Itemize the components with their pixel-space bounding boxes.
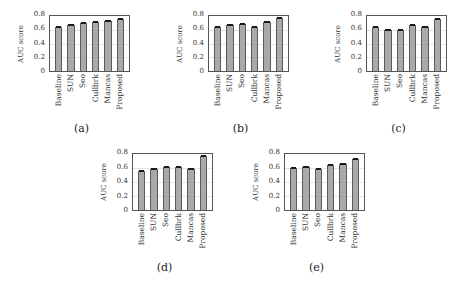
error-bar: [385, 29, 391, 31]
bar-proposed: [276, 18, 284, 71]
y-tick-label: 0.8: [188, 11, 204, 18]
error-bar: [316, 168, 322, 170]
error-bar: [373, 26, 379, 28]
bar-mancas: [187, 169, 195, 210]
x-tick-label: Seo: [79, 74, 87, 122]
bar-baseline: [55, 27, 63, 71]
x-tick-label: Seo: [162, 213, 170, 261]
x-tick-label: Seo: [238, 74, 246, 122]
x-tick-label: Cullbrk: [175, 213, 183, 261]
bar-sun: [226, 25, 234, 71]
bar-seo: [239, 24, 247, 71]
bar-sun: [150, 169, 158, 210]
x-tick-label: Proposed: [351, 213, 359, 261]
y-tick-label: 0.2: [188, 54, 204, 61]
x-tick-label: Proposed: [116, 74, 124, 122]
y-tick-label: 0.6: [264, 164, 280, 171]
x-tick-label: Cullbrk: [251, 74, 259, 122]
y-tick-label: 0.4: [29, 40, 45, 47]
x-tick-label: Seo: [314, 213, 322, 261]
x-tick-label: Proposed: [199, 213, 207, 261]
error-bar: [240, 23, 246, 25]
y-tick-label: 0: [346, 68, 362, 75]
bar-cullbrk: [327, 165, 335, 210]
x-tick-label: SUN: [384, 74, 392, 122]
panel-caption: (a): [67, 122, 97, 135]
x-tick-label: SUN: [302, 213, 310, 261]
y-tick-label: 0.6: [188, 25, 204, 32]
y-tick-label: 0.4: [112, 178, 128, 185]
bar-baseline: [214, 27, 222, 71]
y-tick-label: 0.4: [188, 40, 204, 47]
panel-caption: (d): [150, 261, 180, 274]
bar-seo: [163, 167, 171, 210]
bar-mancas: [104, 21, 112, 71]
error-bar: [118, 18, 124, 20]
x-tick-label: SUN: [67, 74, 75, 122]
error-bar: [227, 24, 233, 26]
y-tick-label: 0.2: [346, 54, 362, 61]
y-tick-label: 0: [29, 68, 45, 75]
y-axis-label: AUC score: [17, 14, 25, 74]
panel-caption: (b): [226, 122, 256, 135]
x-tick-label: Mancas: [104, 74, 112, 122]
error-bar: [68, 24, 74, 26]
bar-baseline: [138, 171, 146, 210]
y-tick-label: 0.2: [112, 193, 128, 200]
error-bar: [303, 166, 309, 168]
bar-seo: [80, 23, 88, 71]
y-axis-label: AUC score: [176, 14, 184, 74]
y-tick-label: 0.8: [29, 11, 45, 18]
x-tick-label: SUN: [226, 74, 234, 122]
x-tick-label: Proposed: [275, 74, 283, 122]
x-tick-label: Cullbrk: [92, 74, 100, 122]
error-bar: [215, 26, 221, 28]
y-tick-label: 0.6: [29, 25, 45, 32]
bar-baseline: [290, 168, 298, 210]
panel-caption: (e): [302, 261, 332, 274]
bar-mancas: [421, 27, 429, 71]
bar-proposed: [200, 156, 208, 210]
error-bar: [93, 21, 99, 23]
error-bar: [435, 18, 441, 20]
y-axis-label: AUC score: [334, 14, 342, 74]
x-tick-label: Cullbrk: [327, 213, 335, 261]
error-bar: [410, 24, 416, 26]
error-bar: [340, 163, 346, 165]
error-bar: [188, 168, 194, 170]
x-tick-label: Baseline: [214, 74, 222, 122]
error-bar: [56, 26, 62, 28]
error-bar: [353, 158, 359, 160]
error-bar: [176, 166, 182, 168]
y-tick-label: 0.6: [346, 25, 362, 32]
panel-caption: (c): [384, 122, 414, 135]
y-tick-label: 0: [264, 207, 280, 214]
bar-proposed: [117, 19, 125, 71]
y-tick-label: 0: [112, 207, 128, 214]
y-axis-label: AUC score: [100, 152, 108, 212]
x-tick-label: SUN: [150, 213, 158, 261]
y-tick-label: 0.8: [264, 149, 280, 156]
y-tick-label: 0.4: [264, 178, 280, 185]
bar-cullbrk: [251, 27, 259, 71]
error-bar: [164, 166, 170, 168]
x-tick-label: Mancas: [187, 213, 195, 261]
bar-cullbrk: [175, 167, 183, 210]
bar-mancas: [339, 164, 347, 210]
bar-proposed: [352, 159, 360, 210]
error-bar: [139, 170, 145, 172]
x-tick-label: Cullbrk: [409, 74, 417, 122]
bar-mancas: [263, 22, 271, 71]
bar-proposed: [434, 19, 442, 71]
error-bar: [201, 155, 207, 157]
error-bar: [151, 168, 157, 170]
y-tick-label: 0.6: [112, 164, 128, 171]
x-tick-label: Baseline: [138, 213, 146, 261]
y-tick-label: 0.8: [346, 11, 362, 18]
error-bar: [291, 167, 297, 169]
y-tick-label: 0.4: [346, 40, 362, 47]
y-tick-label: 0.8: [112, 149, 128, 156]
bar-cullbrk: [409, 25, 417, 71]
error-bar: [328, 164, 334, 166]
x-tick-label: Seo: [396, 74, 404, 122]
